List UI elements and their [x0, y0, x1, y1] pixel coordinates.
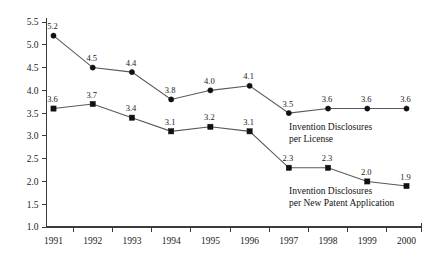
data-point-marker — [247, 129, 252, 134]
data-point-marker — [169, 129, 174, 134]
data-point-marker — [404, 183, 409, 188]
line-chart: 1.01.52.02.53.03.54.04.55.05.5 199119921… — [0, 0, 435, 261]
data-point-marker — [286, 165, 291, 170]
y-axis-tick-label: 1.5 — [27, 200, 39, 210]
data-point-label: 4.0 — [204, 76, 215, 86]
series-annotation-2: per New Patent Application — [289, 198, 395, 208]
data-point-label: 3.8 — [165, 85, 176, 95]
data-point-label: 3.1 — [165, 117, 176, 127]
data-point-label: 4.4 — [126, 58, 137, 68]
y-axis-tick-label: 2.5 — [27, 154, 39, 164]
data-point-marker — [129, 70, 134, 75]
data-point-marker — [365, 179, 370, 184]
x-axis-tick-label: 1994 — [162, 236, 181, 246]
data-point-marker — [90, 65, 95, 70]
x-axis: 1991199219931994199519961997199819992000 — [44, 223, 421, 246]
series-line-1 — [54, 36, 407, 113]
data-point-label: 1.9 — [400, 172, 411, 182]
y-axis-tick-label: 4.5 — [27, 63, 39, 73]
x-axis-tick-label: 2000 — [397, 236, 416, 246]
series-annotation-2: Invention Disclosures — [289, 186, 372, 196]
y-axis-tick-label: 4.0 — [27, 86, 39, 96]
data-point-marker — [404, 106, 409, 111]
y-axis-tick-label: 3.0 — [27, 131, 39, 141]
series-layer — [51, 33, 409, 189]
x-axis-tick-label: 1993 — [122, 236, 141, 246]
series-line-2 — [54, 104, 407, 186]
data-point-label: 3.6 — [47, 94, 58, 104]
data-point-marker — [286, 111, 291, 116]
data-point-label: 2.0 — [361, 167, 372, 177]
data-point-label: 3.7 — [86, 90, 97, 100]
data-point-marker — [90, 101, 95, 106]
x-axis-tick-label: 1995 — [201, 236, 220, 246]
data-point-label: 3.2 — [204, 112, 215, 122]
series-annotation-1: Invention Disclosures — [289, 122, 372, 132]
data-point-label: 2.3 — [322, 153, 333, 163]
x-axis-tick-label: 1999 — [358, 236, 377, 246]
data-point-label: 3.6 — [400, 94, 411, 104]
x-axis-tick-label: 1997 — [279, 236, 298, 246]
series-annotation-1: per License — [289, 134, 333, 144]
x-axis-tick-label: 1992 — [83, 236, 102, 246]
y-axis-tick-label: 3.5 — [27, 109, 39, 119]
data-labels-layer: 5.24.54.43.84.04.13.53.63.63.63.63.73.43… — [47, 21, 411, 181]
data-point-label: 3.6 — [361, 94, 372, 104]
y-axis-tick-label: 5.0 — [27, 40, 39, 50]
data-point-marker — [129, 115, 134, 120]
series-annotations: Invention Disclosuresper LicenseInventio… — [289, 122, 395, 208]
data-point-label: 3.6 — [322, 94, 333, 104]
data-point-marker — [325, 106, 330, 111]
data-point-marker — [365, 106, 370, 111]
data-point-marker — [169, 97, 174, 102]
x-axis-tick-label: 1991 — [44, 236, 63, 246]
data-point-label: 5.2 — [47, 21, 58, 31]
chart-canvas: 1.01.52.02.53.03.54.04.55.05.5 199119921… — [0, 0, 435, 261]
data-point-label: 3.4 — [126, 103, 137, 113]
data-point-marker — [208, 124, 213, 129]
data-point-label: 3.1 — [243, 117, 254, 127]
y-axis-tick-label: 2.0 — [27, 177, 39, 187]
data-point-marker — [51, 106, 56, 111]
x-axis-tick-label: 1996 — [240, 236, 259, 246]
y-axis: 1.01.52.02.53.03.54.04.55.05.5 — [27, 17, 47, 232]
data-point-marker — [247, 83, 252, 88]
data-point-label: 4.5 — [86, 53, 97, 63]
data-point-label: 2.3 — [283, 153, 294, 163]
x-axis-tick-label: 1998 — [319, 236, 338, 246]
data-point-label: 4.1 — [243, 71, 254, 81]
data-point-marker — [208, 88, 213, 93]
data-point-marker — [51, 33, 56, 38]
data-point-marker — [325, 165, 330, 170]
data-point-label: 3.5 — [283, 99, 294, 109]
y-axis-tick-label: 1.0 — [27, 222, 39, 232]
y-axis-tick-label: 5.5 — [27, 17, 39, 27]
